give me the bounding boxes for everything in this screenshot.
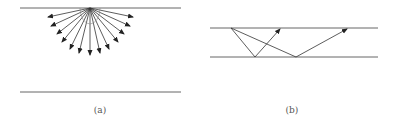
diagram-canvas (0, 0, 395, 124)
panel-b-label: (b) (286, 105, 299, 115)
panel-a-label: (a) (94, 105, 106, 115)
reflected-ray-arrow (296, 29, 347, 57)
panel-a-figure (20, 8, 181, 92)
reflected-ray-arrow (255, 29, 280, 57)
panel-b-figure (210, 28, 378, 57)
incident-ray (231, 28, 255, 57)
incident-ray (231, 28, 296, 57)
